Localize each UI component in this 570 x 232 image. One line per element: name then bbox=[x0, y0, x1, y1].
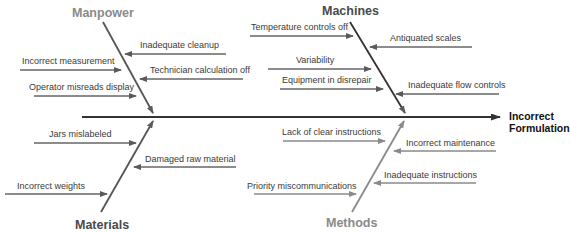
cause-priority-miscommunications: Priority miscommunications bbox=[247, 181, 357, 191]
effect-line-2: Formulation bbox=[509, 122, 570, 134]
effect-label: Incorrect Formulation bbox=[509, 110, 570, 134]
cause-lack-of-clear-instructions: Lack of clear instructions bbox=[282, 127, 381, 137]
cause-incorrect-maintenance: Incorrect maintenance bbox=[406, 138, 495, 148]
cause-antiquated-scales: Antiquated scales bbox=[390, 33, 461, 43]
cause-variability: Variability bbox=[296, 55, 334, 65]
cause-incorrect-measurement: Incorrect measurement bbox=[22, 56, 115, 66]
cause-inadequate-instructions: Inadequate instructions bbox=[384, 170, 477, 180]
cause-equipment-in-disrepair: Equipment in disrepair bbox=[282, 75, 372, 85]
cause-technician-calculation-off: Technician calculation off bbox=[150, 65, 250, 75]
category-manpower: Manpower bbox=[72, 6, 134, 20]
cause-inadequate-flow-controls: Inadequate flow controls bbox=[408, 80, 506, 90]
manpower-bone bbox=[103, 22, 153, 113]
category-machines: Machines bbox=[322, 4, 379, 18]
cause-incorrect-weights: Incorrect weights bbox=[17, 181, 85, 191]
effect-line-1: Incorrect bbox=[509, 110, 570, 122]
cause-operator-misreads-display: Operator misreads display bbox=[29, 82, 134, 92]
category-materials: Materials bbox=[75, 218, 129, 232]
cause-jars-mislabeled: Jars mislabeled bbox=[49, 129, 112, 139]
category-methods: Methods bbox=[326, 216, 377, 230]
cause-inadequate-cleanup: Inadequate cleanup bbox=[140, 40, 219, 50]
cause-damaged-raw-material: Damaged raw material bbox=[145, 154, 236, 164]
cause-temperature-controls-off: Temperature controls off bbox=[251, 22, 348, 32]
